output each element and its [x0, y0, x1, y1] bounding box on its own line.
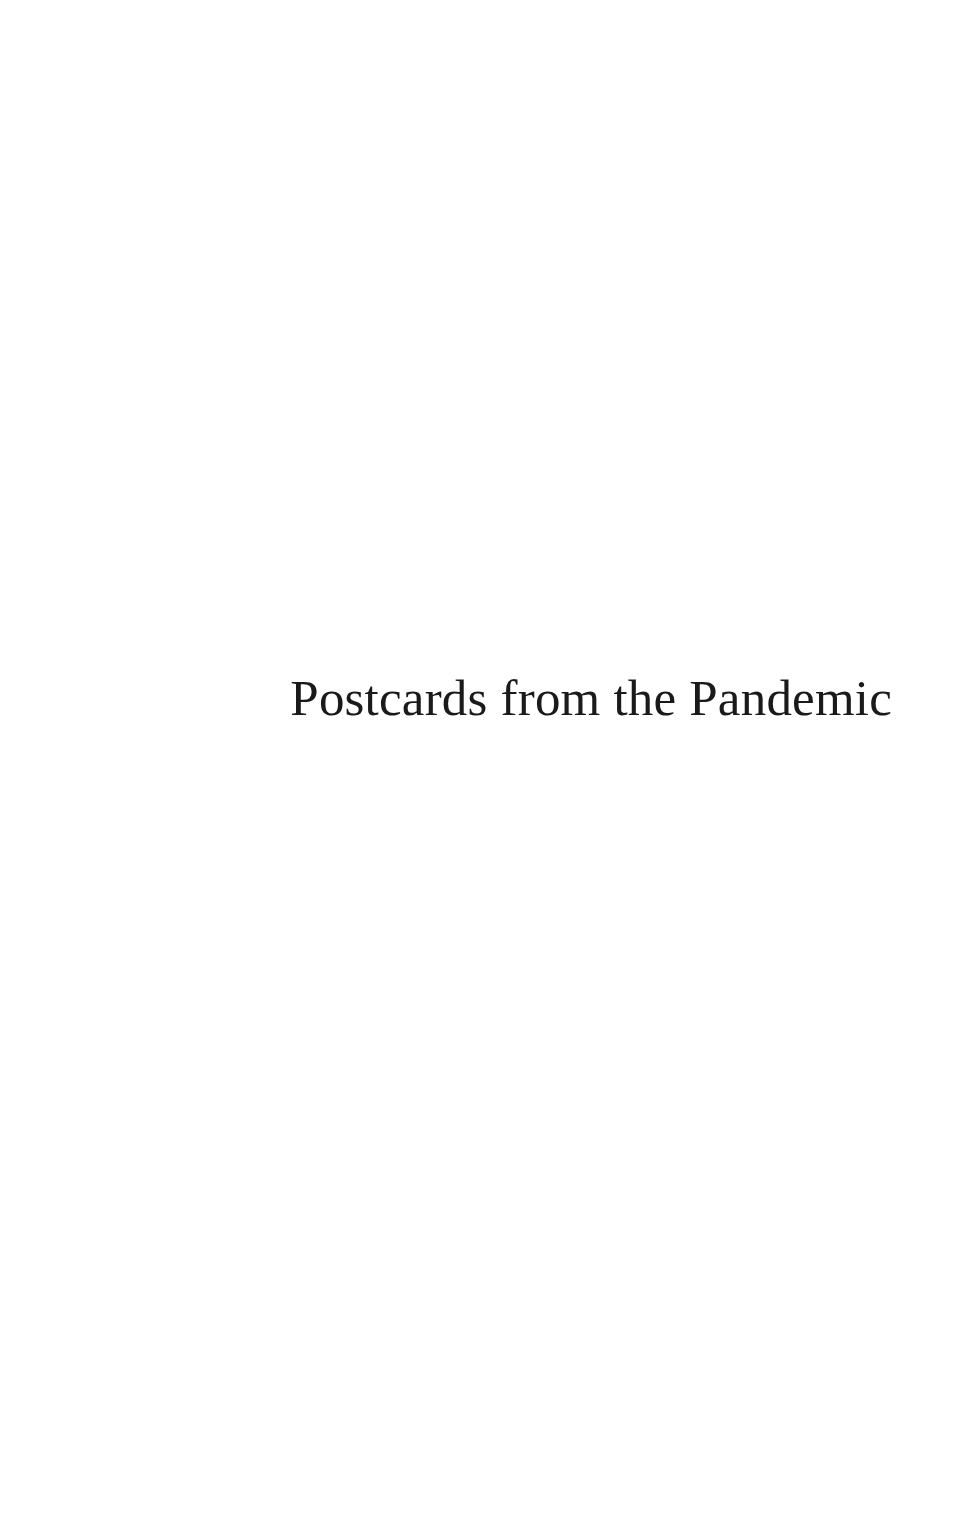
- book-half-title-page: Postcards from the Pandemic: [0, 0, 968, 1534]
- book-title: Postcards from the Pandemic: [290, 668, 892, 729]
